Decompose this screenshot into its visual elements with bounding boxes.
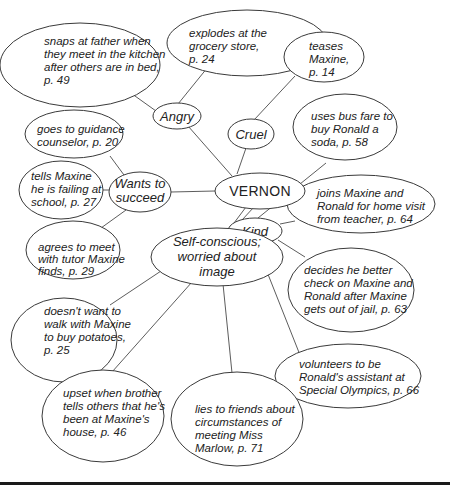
node-potatoes-line: walk with Maxine <box>44 318 131 330</box>
node-decides-line: Ronald after Maxine <box>304 290 407 302</box>
node-guidance: goes to guidance counselor, p. 20 <box>25 110 125 158</box>
node-volunteers-line: volunteers to be <box>299 358 381 370</box>
connections <box>101 62 326 373</box>
trait-cruel: Cruel <box>228 119 274 149</box>
node-tutor: agrees to meet with tutor Maxine finds, … <box>26 221 125 279</box>
center-label: VERNON <box>229 183 291 199</box>
node-bus-line: uses bus fare to <box>311 110 393 122</box>
edge-self-lies <box>223 284 232 373</box>
edge-vernon-angry <box>188 126 232 176</box>
node-guidance-line: goes to guidance <box>37 123 125 135</box>
edge-wants-guidance <box>110 156 124 175</box>
node-lies-line: Marlow, p. 71 <box>195 442 263 454</box>
node-joins-line: joins Maxine and <box>315 187 404 199</box>
node-tutor-line: finds, p. 29 <box>38 265 95 277</box>
edge-kind-joins <box>280 221 295 224</box>
node-teases-line: p. 14 <box>308 66 335 78</box>
trait-self-conscious: Self-conscious; worried about image <box>151 228 283 286</box>
center-node-vernon: VERNON <box>215 173 305 209</box>
node-decides-line: check on Maxine and <box>304 277 413 289</box>
trait-wants-line: succeed <box>116 190 165 205</box>
node-teases: teases Maxine, p. 14 <box>284 32 364 82</box>
node-failing-line: tells Maxine <box>31 170 92 182</box>
node-upset-line: upset when brother <box>63 387 163 399</box>
node-teases-line: teases <box>309 40 343 52</box>
node-bus-line: soda, p. 58 <box>311 136 369 148</box>
node-teases-line: Maxine, <box>309 53 349 65</box>
node-upset-line: tells others that he's <box>63 400 165 412</box>
node-explodes-line: grocery store, <box>189 40 259 52</box>
node-joins: joins Maxine and Ronald for home visit f… <box>287 175 435 233</box>
node-upset-line: been at Maxine's <box>63 413 150 425</box>
node-bus: uses bus fare to buy Ronald a soda, p. 5… <box>293 94 397 160</box>
node-failing-line: school, p. 27 <box>31 196 97 208</box>
trait-self-line: image <box>199 264 234 279</box>
bottom-rule-divider <box>0 482 450 485</box>
trait-angry-label: Angry <box>159 109 195 124</box>
node-tutor-line: with tutor Maxine <box>38 253 125 265</box>
trait-wants-line: Wants to <box>114 176 165 191</box>
node-explodes-line: p. 24 <box>188 53 215 65</box>
node-joins-line: Ronald for home visit <box>317 200 426 212</box>
node-lies-line: meeting Miss <box>195 429 263 441</box>
edge-cruel-teases <box>254 76 295 120</box>
node-lies: lies to friends about circumstances of m… <box>171 372 303 466</box>
edge-vernon-cruel <box>237 148 246 174</box>
node-joins-line: from teacher, p. 64 <box>317 213 413 225</box>
node-decides: decides he better check on Maxine and Ro… <box>288 248 414 332</box>
node-explodes-line: explodes at the <box>189 27 267 39</box>
node-lies-line: circumstances of <box>195 416 283 428</box>
character-web-diagram: snaps at father when they meet in the ki… <box>0 0 450 487</box>
trait-self-line: worried about <box>178 249 258 264</box>
trait-wants-to-succeed: Wants to succeed <box>109 172 171 212</box>
node-guidance-line: counselor, p. 20 <box>37 136 119 148</box>
node-snaps-line: snaps at father when <box>44 35 151 47</box>
node-failing-line: he is failing at <box>31 183 102 195</box>
node-potatoes-line: p. 25 <box>43 344 70 356</box>
node-potatoes-line: doesn't want to <box>44 305 122 317</box>
trait-angry: Angry <box>153 103 201 129</box>
node-snaps-line: after others are in bed, <box>44 61 160 73</box>
node-volunteers-line: Ronald's assistant at <box>299 371 406 383</box>
node-volunteers-line: Special Olympics, p. 66 <box>299 384 420 396</box>
node-potatoes: doesn't want to walk with Maxine to buy … <box>11 298 131 382</box>
node-failing: tells Maxine he is failing at school, p.… <box>19 161 103 219</box>
node-potatoes-line: to buy potatoes, <box>44 331 126 343</box>
node-upset: upset when brother tells others that he'… <box>42 370 165 462</box>
trait-self-line: Self-conscious; <box>173 234 262 249</box>
node-snaps-line: p. 49 <box>43 74 70 86</box>
node-upset-line: house, p. 46 <box>63 426 127 438</box>
node-tutor-line: agrees to meet <box>38 241 116 253</box>
edge-wants-tutor <box>101 210 126 228</box>
node-bus-line: buy Ronald a <box>311 123 379 135</box>
node-snaps-line: they meet in the kitchen <box>44 48 165 60</box>
node-lies-line: lies to friends about <box>195 403 296 415</box>
node-snaps: snaps at father when they meet in the ki… <box>0 23 165 107</box>
edge-vernon-wants <box>171 191 215 192</box>
trait-cruel-label: Cruel <box>235 127 267 142</box>
edge-self-potatoes <box>110 271 161 305</box>
node-decides-line: decides he better <box>304 264 393 276</box>
node-decides-line: gets out of jail, p. 63 <box>304 303 408 315</box>
